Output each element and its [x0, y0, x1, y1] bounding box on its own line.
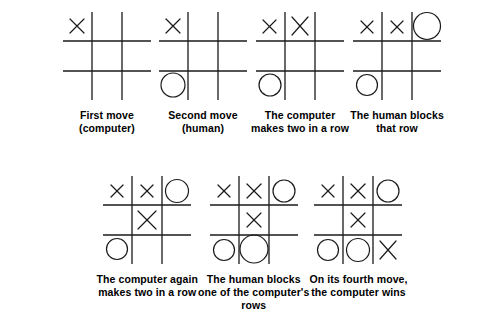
mark-o-r2c0 [259, 74, 281, 96]
board-caption-1-line-2: (computer) [79, 122, 135, 135]
board-row-bottom: The computer again makes two in a row [0, 172, 504, 312]
mark-o-r0c2 [166, 180, 189, 203]
board-2-marks [161, 19, 185, 97]
board-caption-7-line-2: the computer wins [309, 286, 407, 299]
mark-x-r0c1 [292, 17, 308, 35]
board-caption-3-line-1: The computer [251, 109, 349, 122]
mark-x-r0c0 [166, 19, 180, 33]
board-panel-3: The computer makes two in a row [251, 8, 349, 135]
board-caption-6: The human blocks one of the computer's r… [198, 273, 309, 312]
board-3 [252, 8, 348, 104]
board-caption-6-line-1: The human blocks [198, 273, 309, 286]
board-caption-4-line-1: The human blocks [350, 109, 444, 122]
mark-o-r2c0 [213, 240, 234, 261]
mark-x-r1c1 [138, 211, 156, 229]
mark-o-r2c0 [107, 239, 128, 260]
mark-x-r1c1 [247, 213, 261, 227]
board-2 [155, 8, 251, 104]
board-6 [206, 172, 302, 268]
board-panel-1: First move (computer) [59, 8, 155, 135]
board-4-marks [357, 13, 441, 96]
mark-x-r0c0 [218, 185, 230, 197]
mark-x-r0c1 [141, 185, 153, 197]
mark-o-r2c1 [347, 239, 370, 262]
board-caption-6-line-3: rows [198, 299, 309, 312]
mark-o-r2c0 [318, 240, 339, 261]
mark-o-r0c2 [414, 13, 441, 40]
tic-tac-toe-sequence-diagram: First move (computer) [0, 0, 504, 331]
mark-x-r0c0 [263, 20, 276, 33]
mark-o-r0c2 [273, 180, 295, 202]
board-caption-2-line-1: Second move [168, 109, 237, 122]
board-caption-2-line-2: (human) [168, 122, 237, 135]
board-caption-6-line-2: one of the computer's [198, 286, 309, 299]
board-3-marks [259, 17, 308, 96]
board-caption-3: The computer makes two in a row [251, 109, 349, 135]
board-panel-2: Second move (human) [155, 8, 251, 135]
board-5-marks [107, 180, 189, 260]
board-caption-4-line-2: that row [350, 122, 444, 135]
board-caption-4: The human blocks that row [350, 109, 444, 135]
mark-x-r0c1 [247, 184, 261, 198]
mark-x-r0c0 [322, 185, 334, 197]
board-7-grid [310, 172, 406, 268]
mark-o-r2c0 [161, 73, 185, 97]
mark-o-r2c0 [357, 75, 378, 96]
board-1-marks [70, 19, 84, 33]
board-caption-5-line-2: makes two in a row [96, 286, 198, 299]
board-1 [59, 8, 155, 104]
board-7-marks [318, 180, 400, 262]
board-caption-5-line-1: The computer again [96, 273, 198, 286]
board-5 [99, 172, 195, 268]
board-caption-3-line-2: makes two in a row [251, 122, 349, 135]
board-panel-4: The human blocks that row [349, 8, 445, 135]
board-row-top: First move (computer) [0, 8, 504, 135]
mark-x-r2c2 [380, 241, 396, 259]
board-6-grid [206, 172, 302, 268]
mark-x-r0c0 [361, 21, 373, 33]
board-caption-1: First move (computer) [79, 109, 135, 135]
board-caption-1-line-1: First move [79, 109, 135, 122]
mark-o-r0c2 [377, 180, 399, 202]
board-7 [310, 172, 406, 268]
board-3-grid [252, 8, 348, 104]
board-caption-5: The computer again makes two in a row [96, 273, 198, 299]
board-5-grid [99, 172, 195, 268]
board-4-grid [349, 8, 445, 104]
board-6-marks [213, 180, 295, 263]
mark-x-r0c1 [351, 184, 365, 198]
mark-x-r1c1 [351, 213, 365, 227]
mark-x-r0c0 [111, 185, 123, 197]
board-caption-2: Second move (human) [168, 109, 237, 135]
board-panel-5: The computer again makes two in a row [96, 172, 198, 299]
mark-x-r0c1 [391, 21, 403, 33]
board-caption-7-line-1: On its fourth move, [309, 273, 407, 286]
board-4 [349, 8, 445, 104]
board-panel-6: The human blocks one of the computer's r… [198, 172, 309, 312]
board-1-grid [59, 8, 155, 104]
board-panel-7: On its fourth move, the computer wins [309, 172, 407, 299]
board-caption-7: On its fourth move, the computer wins [309, 273, 407, 299]
board-2-grid [155, 8, 251, 104]
mark-x-r0c0 [70, 19, 84, 33]
mark-o-r2c1 [240, 235, 268, 263]
